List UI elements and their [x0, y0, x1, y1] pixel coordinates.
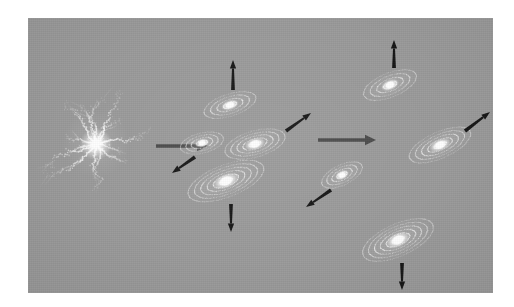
galaxy-stage3-bottom [355, 208, 442, 271]
galaxy-stage2-top [199, 85, 260, 125]
velocity-arrows-group [172, 40, 490, 290]
galaxy-stage2-middle [220, 122, 290, 167]
galaxy-stage3-small [317, 155, 368, 195]
figure-root [0, 0, 514, 307]
velocity-arrow-up-stage3 [391, 40, 397, 68]
velocity-arrow-upright-stage2 [285, 113, 311, 133]
galaxy-stage2-left [177, 127, 227, 159]
velocity-arrow-down-stage3 [399, 263, 405, 290]
velocity-arrow-down-stage2 [228, 204, 234, 232]
velocity-arrow-up-stage2 [230, 60, 236, 90]
velocity-arrow-downleft-stage3 [306, 188, 332, 207]
galaxy-evolution-scene [28, 18, 493, 293]
galaxy-stage3-right [403, 118, 478, 171]
velocity-arrow-upright-stage3 [464, 112, 490, 133]
figure-panel [28, 18, 493, 293]
velocity-arrow-downleft-stage2 [172, 155, 196, 173]
galaxies-group [177, 62, 477, 271]
protogalaxy [37, 86, 151, 194]
stage-arrow-2 [318, 135, 376, 145]
galaxy-stage3-top [358, 62, 422, 108]
